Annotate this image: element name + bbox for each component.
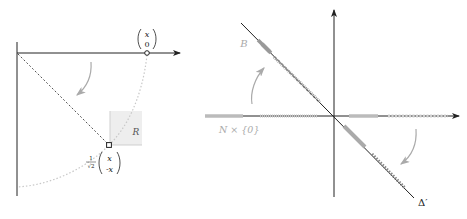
fraction-denominator: √2 xyxy=(87,163,94,169)
label-n-times-zero: N × {0} xyxy=(218,124,259,135)
vector-top-entry: x xyxy=(145,30,150,39)
label-delta-prime: Δ′ xyxy=(418,197,428,208)
vector-top-entry: x xyxy=(107,154,112,163)
rotation-arrow-up xyxy=(252,68,264,104)
point-x-0 xyxy=(145,51,150,56)
rotation-arrow-down xyxy=(401,129,416,164)
segment-b-thick-2 xyxy=(258,40,271,53)
label-b: B xyxy=(239,38,247,49)
label-vector-x-0: x 0 xyxy=(138,29,156,49)
vector-bottom-entry: -x xyxy=(106,165,114,174)
right-panel: B N × {0} Δ′ xyxy=(205,10,459,208)
label-scaled-vector: 1 √2 x -x xyxy=(86,152,120,174)
segment-delta-wavy xyxy=(372,154,405,188)
rotation-arrow-left xyxy=(77,62,91,95)
region-label: R xyxy=(132,127,140,137)
fraction-numerator: 1 xyxy=(89,155,93,161)
left-panel: x 0 1 √2 x -x R xyxy=(17,29,180,196)
vector-bottom-entry: 0 xyxy=(144,40,149,49)
point-x-minus-x xyxy=(107,143,112,148)
dashed-diagonal xyxy=(18,54,108,144)
segment-delta-thick xyxy=(344,126,365,147)
diagram-canvas: x 0 1 √2 x -x R xyxy=(0,0,467,219)
